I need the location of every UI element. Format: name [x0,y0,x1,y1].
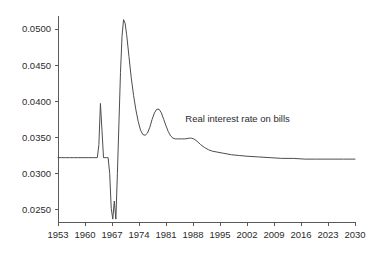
x-tick-label: 2002 [236,229,257,240]
x-axis: 1953196019671974198119881995200220092016… [47,222,365,240]
x-tick-label: 2023 [317,229,338,240]
y-tick-label: 0.0350 [22,132,51,143]
x-tick-label: 1995 [209,229,230,240]
y-tick-group [55,29,59,210]
x-tick-label: 1967 [101,229,122,240]
y-axis: 0.02500.03000.03500.04000.04500.0500 [22,16,58,222]
y-tick-label: 0.0500 [22,23,51,34]
y-tick-label: 0.0450 [22,60,51,71]
annotation-group: Real interest rate on bills [185,113,290,124]
y-tick-label: 0.0300 [22,168,51,179]
x-tick-label: 1953 [47,229,68,240]
y-tick-label: 0.0250 [22,204,51,215]
y-tick-label-group: 0.02500.03000.03500.04000.04500.0500 [22,23,51,215]
line-chart: 0.02500.03000.03500.04000.04500.0500 195… [0,0,378,260]
x-tick-label: 1974 [128,229,149,240]
y-tick-label: 0.0400 [22,96,51,107]
x-tick-group [58,222,355,226]
x-tick-label: 1988 [182,229,203,240]
x-tick-label: 2030 [344,229,365,240]
x-tick-label: 1981 [155,229,176,240]
x-tick-label: 1960 [74,229,95,240]
x-tick-label: 2016 [290,229,311,240]
chart-container: 0.02500.03000.03500.04000.04500.0500 195… [0,0,378,260]
series-label: Real interest rate on bills [185,113,290,124]
x-tick-label: 2009 [263,229,284,240]
x-tick-label-group: 1953196019671974198119881995200220092016… [47,229,365,240]
